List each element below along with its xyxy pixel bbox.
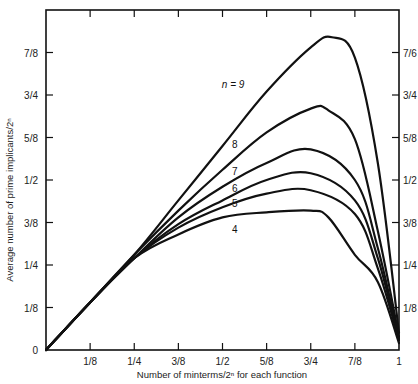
y-tick-label-right: 7/6 (403, 48, 417, 59)
curve-n7 (46, 149, 399, 350)
prime-implicants-chart: 1/81/43/81/25/83/47/8101/81/43/81/25/83/… (0, 0, 418, 384)
curve-labels: n = 987654 (222, 79, 245, 235)
origin-label: 0 (32, 345, 38, 356)
curve-label: n = 9 (222, 79, 245, 90)
y-tick-label-right: 3/4 (403, 90, 417, 101)
x-tick-label: 5/8 (260, 356, 274, 367)
x-axis-title: Number of minterms/2ⁿ for each function (137, 369, 307, 380)
curve-label: 4 (232, 224, 238, 235)
x-tick-label: 1 (396, 356, 402, 367)
x-tick-label: 1/2 (216, 356, 230, 367)
y-axis-title: Average number of prime implicants/2ⁿ (4, 118, 15, 281)
y-tick-label-right: 3/8 (403, 218, 417, 229)
x-tick-label: 1/8 (83, 356, 97, 367)
y-tick-label-left: 3/8 (24, 218, 38, 229)
y-tick-label-left: 1/8 (24, 303, 38, 314)
y-tick-label-right: 5/8 (403, 133, 417, 144)
x-tick-label: 3/4 (304, 356, 318, 367)
y-tick-label-left: 5/8 (24, 133, 38, 144)
x-tick-label: 3/8 (171, 356, 185, 367)
y-tick-label-left: 7/8 (24, 48, 38, 59)
y-tick-label-left: 1/2 (24, 175, 38, 186)
curve-n8 (46, 106, 399, 350)
plot-border (46, 10, 399, 350)
x-tick-label: 1/4 (127, 356, 141, 367)
y-tick-label-right: 1/8 (403, 303, 417, 314)
y-tick-label-left: 3/4 (24, 90, 38, 101)
curve-n4 (46, 210, 399, 350)
plot-frame (46, 10, 399, 350)
curve-label: 7 (232, 166, 238, 177)
curve-n5 (46, 189, 399, 350)
y-tick-label-left: 1/4 (24, 260, 38, 271)
curve-n6 (46, 172, 399, 350)
y-tick-label-right: 1/4 (403, 260, 417, 271)
curve-label: 5 (232, 198, 238, 209)
y-tick-label-right: 1/2 (403, 175, 417, 186)
x-tick-label: 7/8 (348, 356, 362, 367)
curve-label: 8 (232, 139, 238, 150)
curve-label: 6 (232, 183, 238, 194)
